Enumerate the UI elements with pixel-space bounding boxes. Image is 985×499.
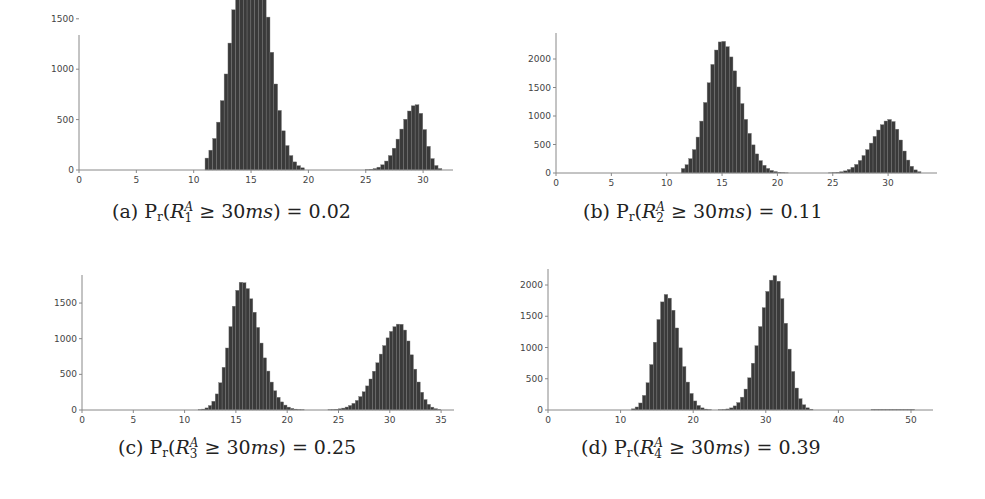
histogram-bar xyxy=(769,280,773,410)
caption-d: (d) Pr(RA4 ≥ 30ms) = 0.39 xyxy=(581,436,821,460)
y-tick-label: 1500 xyxy=(520,311,543,321)
histogram-bar xyxy=(791,371,795,410)
histogram-bar xyxy=(788,349,792,410)
histogram-bar xyxy=(740,397,744,410)
histogram-bar xyxy=(682,367,686,410)
histogram-bar xyxy=(639,403,643,410)
histogram-bar xyxy=(693,401,697,410)
prob-symbol: P xyxy=(614,436,627,458)
variable-indices: A4 xyxy=(654,438,663,460)
histogram-bar xyxy=(759,327,763,410)
unit: ms xyxy=(715,436,743,458)
histogram-bars xyxy=(631,276,914,410)
histogram-bar xyxy=(798,399,802,410)
histogram-bar xyxy=(766,291,770,410)
y-tick-label: 1000 xyxy=(520,343,543,353)
histogram-bar xyxy=(748,378,752,410)
histogram-bar xyxy=(795,388,799,410)
histogram-bar xyxy=(653,342,657,410)
histogram-bar xyxy=(744,389,748,410)
histogram-bar xyxy=(679,348,683,410)
histogram-bar xyxy=(802,405,806,410)
histogram-bar xyxy=(777,281,781,410)
histogram-bar xyxy=(780,299,784,410)
histogram-bar xyxy=(664,294,668,410)
y-tick-label: 0 xyxy=(537,405,543,415)
relation: ≥ 30 xyxy=(669,436,715,458)
histogram-bar xyxy=(762,308,766,410)
y-tick-label: 2000 xyxy=(520,280,543,290)
histogram-bar xyxy=(755,346,759,410)
histogram-bar xyxy=(773,276,777,410)
subscript: 4 xyxy=(654,449,663,460)
x-tick-label: 0 xyxy=(545,415,551,425)
caption-label: (d) xyxy=(581,436,608,458)
x-tick-label: 30 xyxy=(760,415,772,425)
histogram-bar xyxy=(661,302,665,410)
y-tick-label: 500 xyxy=(526,374,543,384)
histogram-bar xyxy=(675,328,679,410)
histogram-bar xyxy=(697,405,701,410)
histogram-d-chart: 010203040500500100015002000 xyxy=(0,0,985,499)
histogram-bar xyxy=(690,393,694,410)
histogram-bar xyxy=(737,403,741,410)
histogram-bar xyxy=(668,298,672,410)
variable: R xyxy=(640,436,654,458)
value: ) = 0.39 xyxy=(743,436,821,458)
x-tick-label: 40 xyxy=(833,415,845,425)
histogram-bar xyxy=(751,363,755,410)
histogram-bar xyxy=(784,323,788,410)
x-tick-label: 10 xyxy=(615,415,627,425)
histogram-bar xyxy=(657,319,661,410)
histogram-bar xyxy=(733,406,737,410)
histogram-bar xyxy=(646,383,650,410)
x-tick-label: 50 xyxy=(905,415,917,425)
histogram-bar xyxy=(642,395,646,410)
x-tick-label: 20 xyxy=(687,415,699,425)
prob-subscript: r xyxy=(627,446,633,460)
histogram-bar xyxy=(650,365,654,410)
histogram-bar xyxy=(671,310,675,410)
histogram-bar xyxy=(686,382,690,410)
